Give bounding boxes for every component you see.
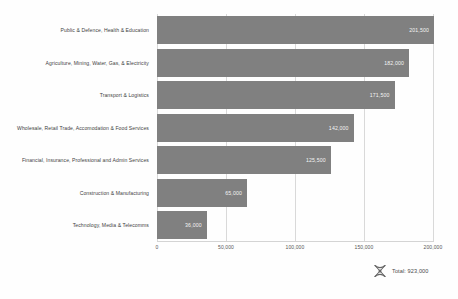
bar-row: 36,000	[157, 211, 434, 239]
total-summary: Total: 923,000	[372, 263, 429, 279]
bar-row: 201,500	[157, 16, 434, 44]
bar[interactable]: 65,000	[157, 179, 247, 207]
bar[interactable]: 36,000	[157, 211, 207, 239]
x-tick-label: 0	[156, 244, 159, 250]
bar-value-label: 65,000	[225, 190, 242, 196]
total-label: Total: 923,000	[392, 268, 429, 274]
bar-value-label: 201,500	[409, 27, 429, 33]
bar-row: 171,500	[157, 81, 434, 109]
x-tick-label: 50,000	[218, 244, 234, 250]
bar-chart: Public & Defence, Health & Education Agr…	[0, 0, 458, 299]
category-label: Transport & Logistics	[0, 81, 152, 109]
category-label: Wholesale, Retail Trade, Accomodation & …	[0, 114, 152, 142]
x-marker-icon	[372, 263, 388, 279]
bar[interactable]: 142,000	[157, 114, 354, 142]
bar-value-label: 171,500	[370, 92, 390, 98]
category-label: Construction & Manufacturing	[0, 179, 152, 207]
bar-rows: 201,500 182,000 171,500 142,000	[157, 16, 434, 239]
bar-row: 142,000	[157, 114, 434, 142]
bar-value-label: 36,000	[185, 222, 202, 228]
bar[interactable]: 182,000	[157, 49, 409, 77]
x-tick-label: 100,000	[286, 244, 305, 250]
bar-value-label: 125,500	[306, 157, 326, 163]
bar[interactable]: 171,500	[157, 81, 395, 109]
category-label: Agriculture, Mining, Water, Gas, & Elect…	[0, 49, 152, 77]
bar-row: 65,000	[157, 179, 434, 207]
bar[interactable]: 201,500	[157, 16, 434, 44]
category-label: Technology, Media & Telecomms	[0, 211, 152, 239]
bar[interactable]: 125,500	[157, 146, 331, 174]
x-tick-label: 200,000	[424, 244, 443, 250]
category-label: Financial, Insurance, Professional and A…	[0, 146, 152, 174]
bar-row: 125,500	[157, 146, 434, 174]
category-axis-labels: Public & Defence, Health & Education Agr…	[0, 16, 152, 239]
x-axis: 0 50,000 100,000 150,000 200,000	[157, 241, 434, 253]
bar-value-label: 142,000	[329, 125, 349, 131]
x-tick-label: 150,000	[355, 244, 374, 250]
category-label: Public & Defence, Health & Education	[0, 16, 152, 44]
bar-value-label: 182,000	[384, 60, 404, 66]
bar-row: 182,000	[157, 49, 434, 77]
plot-area: 201,500 182,000 171,500 142,000	[157, 14, 434, 241]
x-axis-line	[157, 241, 434, 242]
